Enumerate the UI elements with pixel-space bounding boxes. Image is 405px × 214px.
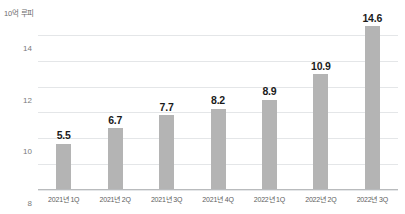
gridline: 10 [38, 87, 398, 88]
y-axis-tick-label: 10 [23, 147, 32, 156]
x-axis-category-label: 2022년 2Q [305, 194, 336, 204]
bar-group[interactable]: 14.6 [349, 13, 395, 189]
bar[interactable] [159, 115, 174, 189]
x-axis-category-label: 2021년 4Q [202, 194, 233, 204]
x-axis-category-label: 2021년 3Q [151, 194, 182, 204]
bar-value-label: 7.7 [160, 102, 174, 113]
bar-value-label: 8.2 [211, 95, 225, 106]
bar-group[interactable]: 10.9 [298, 61, 344, 190]
gridline: 14 [38, 35, 398, 36]
bar[interactable] [365, 26, 380, 189]
x-axis-category-label: 2021년 1Q [48, 194, 79, 204]
bar-group[interactable]: 8.9 [246, 86, 292, 189]
bar[interactable] [211, 109, 226, 189]
y-axis-unit-label: 10억 루피 [4, 7, 34, 18]
bar[interactable] [262, 100, 277, 189]
y-axis-tick-label: 14 [23, 43, 32, 52]
bar-value-label: 8.9 [262, 86, 276, 97]
x-axis-category-label: 2021년 2Q [100, 194, 131, 204]
bar-group[interactable]: 8.2 [195, 95, 241, 189]
bar-value-label: 10.9 [311, 61, 331, 72]
bar-chart: 10억 루피 24681012145.52021년 1Q6.72021년 2Q7… [0, 0, 405, 214]
bar-value-label: 14.6 [362, 13, 382, 24]
y-axis-tick-label: 12 [23, 95, 32, 104]
x-axis-category-label: 2022년 3Q [357, 194, 388, 204]
bar[interactable] [108, 128, 123, 189]
bar[interactable] [56, 144, 71, 189]
bar-group[interactable]: 7.7 [144, 102, 190, 189]
plot-area: 24681012145.52021년 1Q6.72021년 2Q7.72021년… [38, 22, 398, 190]
bar-group[interactable]: 6.7 [92, 115, 138, 189]
x-axis-category-label: 2022년 1Q [254, 194, 285, 204]
gridline: 2 [38, 190, 398, 191]
y-axis-tick-label: 8 [28, 198, 32, 207]
bar-value-label: 5.5 [57, 130, 71, 141]
bar[interactable] [313, 74, 328, 189]
gridline: 12 [38, 61, 398, 62]
bar-value-label: 6.7 [108, 115, 122, 126]
bar-group[interactable]: 5.5 [41, 130, 87, 189]
